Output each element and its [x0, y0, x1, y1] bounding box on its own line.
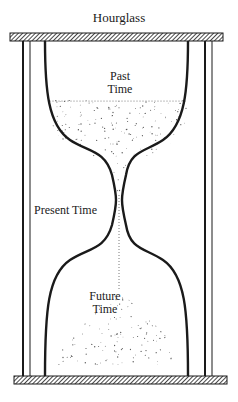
- past-time-label-line2: Time: [95, 83, 145, 96]
- top-base: [10, 33, 223, 41]
- sand-top: [44, 99, 190, 199]
- past-time-label: Past Time: [95, 70, 145, 96]
- present-time-label: Present Time: [34, 204, 97, 217]
- future-time-label-line2: Time: [80, 303, 130, 316]
- future-time-label: Future Time: [80, 290, 130, 316]
- bottom-base: [14, 376, 227, 384]
- hourglass-illustration: [0, 0, 238, 402]
